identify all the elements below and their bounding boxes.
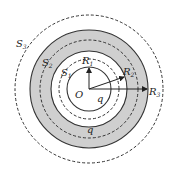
label-r3: R3	[148, 86, 161, 98]
label-charge-shell: q	[87, 124, 93, 135]
center-label: O	[75, 89, 83, 100]
concentric-sphere-diagram: O R1 R2 R3 S1 S2 S3 q q	[0, 0, 169, 171]
label-charge-inner: q	[97, 93, 103, 104]
label-s3: S3	[16, 38, 27, 50]
